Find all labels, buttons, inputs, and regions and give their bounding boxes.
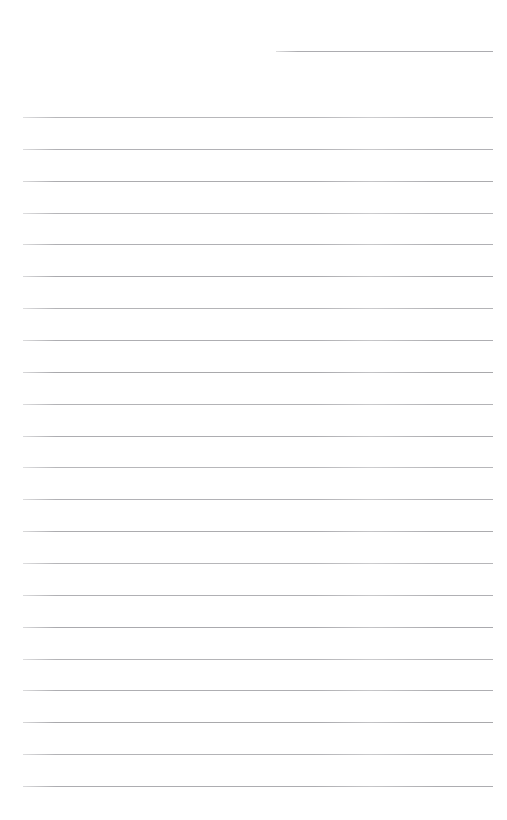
lined-page	[0, 0, 507, 820]
rule-line[interactable]	[23, 372, 493, 373]
rule-line[interactable]	[23, 276, 493, 277]
rule-line[interactable]	[23, 149, 493, 150]
rule-line[interactable]	[23, 436, 493, 437]
rule-line[interactable]	[23, 595, 493, 596]
rule-line[interactable]	[23, 499, 493, 500]
rule-line[interactable]	[23, 722, 493, 723]
rule-line[interactable]	[23, 467, 493, 468]
rule-line[interactable]	[23, 181, 493, 182]
rule-line[interactable]	[23, 117, 493, 118]
rule-line[interactable]	[23, 213, 493, 214]
rule-line[interactable]	[23, 244, 493, 245]
rule-line[interactable]	[23, 531, 493, 532]
rule-line[interactable]	[23, 563, 493, 564]
rule-line[interactable]	[23, 340, 493, 341]
ruled-lines-area[interactable]	[0, 0, 507, 820]
rule-line[interactable]	[23, 786, 493, 787]
rule-line[interactable]	[23, 754, 493, 755]
rule-line[interactable]	[23, 308, 493, 309]
rule-line[interactable]	[23, 627, 493, 628]
rule-line[interactable]	[23, 659, 493, 660]
rule-line[interactable]	[23, 690, 493, 691]
rule-line[interactable]	[23, 404, 493, 405]
